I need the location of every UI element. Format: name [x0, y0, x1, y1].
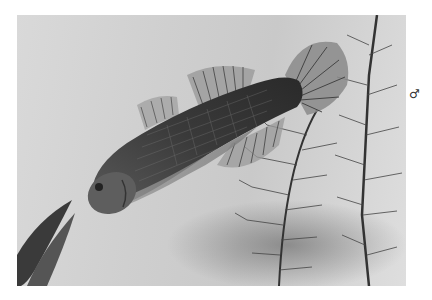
fish-photograph: [17, 15, 406, 286]
clipped-caption: [120, 0, 310, 3]
fish-illustration: [17, 15, 406, 286]
fish-eye: [95, 183, 103, 191]
dark-leaf: [17, 200, 75, 286]
male-symbol: ♂: [409, 87, 420, 101]
